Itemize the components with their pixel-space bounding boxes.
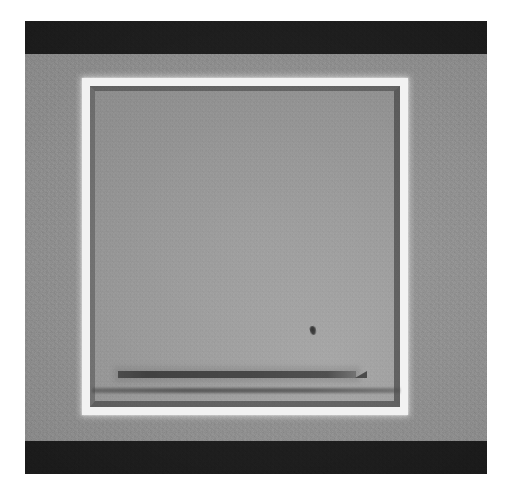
content-block <box>25 21 487 474</box>
grain-overlay-top <box>25 21 487 54</box>
bright-bordered-square <box>82 78 408 415</box>
grain-overlay-window <box>90 86 400 407</box>
grain-overlay-bottom <box>25 441 487 474</box>
top-dark-band <box>25 21 487 54</box>
bottom-dark-band <box>25 441 487 474</box>
lower-shadow-band <box>92 388 400 393</box>
micrograph-canvas <box>0 0 510 497</box>
window-interior-surface <box>90 86 400 407</box>
long-dark-bar <box>118 371 356 378</box>
